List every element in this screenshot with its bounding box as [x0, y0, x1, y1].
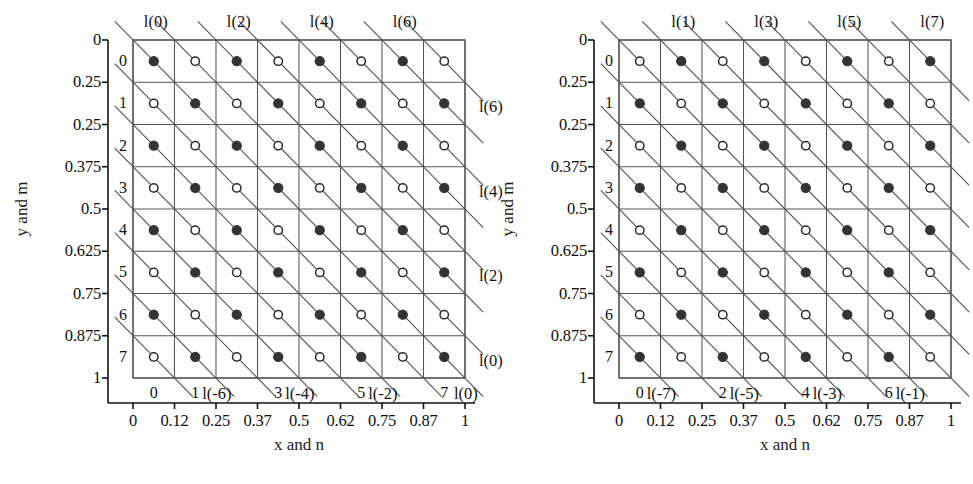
panel-left: 00.250.250.3750.50.6250.750.875100.120.2…	[0, 0, 487, 484]
x-tick-label: 1	[947, 411, 955, 431]
marker-open	[636, 57, 644, 65]
n-index-label: 0	[150, 384, 158, 402]
marker-open	[636, 226, 644, 234]
marker-filled	[274, 352, 283, 361]
n-index-label: 0	[636, 384, 644, 402]
m-index-label: 0	[591, 52, 613, 70]
marker-open	[191, 226, 199, 234]
marker-open	[843, 353, 851, 361]
marker-filled	[149, 310, 158, 319]
x-tick-label: 0.62	[812, 411, 840, 431]
diagonal-label-top: l(3)	[754, 12, 778, 32]
m-index-label: 1	[105, 94, 127, 112]
marker-open	[440, 57, 448, 65]
marker-open	[719, 57, 727, 65]
marker-filled	[884, 99, 893, 108]
marker-filled	[635, 268, 644, 277]
marker-filled	[191, 352, 200, 361]
marker-open	[274, 310, 282, 318]
marker-filled	[315, 310, 324, 319]
marker-open	[274, 57, 282, 65]
diagonal-label-bottom: l(-3)	[813, 384, 842, 404]
marker-open	[233, 268, 241, 276]
marker-open	[885, 310, 893, 318]
marker-filled	[926, 310, 935, 319]
marker-open	[357, 57, 365, 65]
marker-open	[150, 99, 158, 107]
marker-open	[274, 226, 282, 234]
marker-open	[760, 268, 768, 276]
marker-open	[233, 99, 241, 107]
x-tick-label: 0.25	[202, 411, 230, 431]
marker-open	[802, 226, 810, 234]
marker-filled	[760, 57, 769, 66]
marker-filled	[884, 352, 893, 361]
marker-filled	[274, 183, 283, 192]
n-index-label: 3	[274, 384, 282, 402]
marker-filled	[635, 99, 644, 108]
n-index-label: 4	[802, 384, 810, 402]
marker-open	[802, 141, 810, 149]
marker-open	[843, 268, 851, 276]
marker-filled	[718, 268, 727, 277]
m-index-label: 0	[105, 52, 127, 70]
y-tick-label: 0.375	[46, 157, 101, 177]
marker-open	[760, 184, 768, 192]
marker-filled	[635, 352, 644, 361]
marker-filled	[801, 352, 810, 361]
marker-open	[719, 141, 727, 149]
marker-filled	[843, 141, 852, 150]
marker-open	[843, 99, 851, 107]
marker-open	[677, 99, 685, 107]
marker-filled	[801, 183, 810, 192]
marker-open	[926, 268, 934, 276]
marker-filled	[274, 99, 283, 108]
m-index-label: 4	[105, 221, 127, 239]
marker-filled	[357, 99, 366, 108]
diagonal-label-bottom: l(-6)	[202, 384, 231, 404]
marker-filled	[440, 183, 449, 192]
marker-filled	[398, 57, 407, 66]
marker-open	[357, 141, 365, 149]
marker-open	[440, 310, 448, 318]
panel-right: 00.250.250.3750.50.6250.750.875100.120.2…	[486, 0, 973, 484]
m-index-label: 5	[105, 263, 127, 281]
marker-open	[150, 268, 158, 276]
marker-filled	[398, 141, 407, 150]
m-index-label: 5	[591, 263, 613, 281]
marker-filled	[760, 141, 769, 150]
marker-open	[719, 226, 727, 234]
marker-open	[926, 99, 934, 107]
diagonal-label-bottom: l(-7)	[647, 384, 676, 404]
marker-open	[885, 226, 893, 234]
n-index-label: 1	[191, 384, 199, 402]
marker-open	[399, 184, 407, 192]
n-index-label: 7	[440, 384, 448, 402]
marker-open	[316, 268, 324, 276]
marker-open	[150, 353, 158, 361]
x-tick-label: 0.37	[243, 411, 271, 431]
marker-filled	[677, 141, 686, 150]
marker-filled	[149, 226, 158, 235]
x-tick-label: 0.87	[895, 411, 923, 431]
marker-open	[843, 184, 851, 192]
x-tick-label: 0.62	[326, 411, 354, 431]
marker-filled	[440, 268, 449, 277]
marker-open	[636, 141, 644, 149]
y-tick-label: 1	[46, 368, 101, 388]
marker-open	[357, 226, 365, 234]
diagonal-label-top: l(6)	[393, 12, 417, 32]
marker-open	[316, 99, 324, 107]
n-index-label: 5	[357, 384, 365, 402]
marker-filled	[677, 226, 686, 235]
diagonal-label-bottom: l(-4)	[285, 384, 314, 404]
marker-filled	[191, 99, 200, 108]
marker-filled	[926, 141, 935, 150]
marker-open	[885, 57, 893, 65]
m-index-label: 2	[105, 137, 127, 155]
y-tick-label: 0.375	[532, 157, 587, 177]
y-tick-label: 0.625	[46, 241, 101, 261]
y-tick-label: 0.25	[46, 115, 101, 135]
n-index-label: 6	[885, 384, 893, 402]
marker-open	[677, 268, 685, 276]
